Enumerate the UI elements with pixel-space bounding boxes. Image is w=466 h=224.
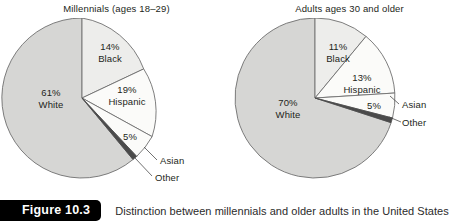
label-hispanic-name-millennials: Hispanic: [108, 96, 145, 107]
figure-caption-text: Distinction between millennials and olde…: [115, 205, 449, 217]
label-black-pct-millennials: 14%: [100, 41, 120, 52]
label-black-name-adults: Black: [326, 53, 350, 64]
pie-svg-adults: 11% Black 13% Hispanic 5% 70% White Asia…: [233, 18, 466, 195]
label-hispanic-pct-millennials: 19%: [117, 84, 137, 95]
figure-caption-row: Figure 10.3 Distinction between millenni…: [0, 197, 466, 224]
label-asian-name-millennials: Asian: [160, 155, 184, 166]
label-white-name-millennials: White: [39, 99, 64, 110]
label-hispanic-name-adults: Hispanic: [343, 84, 380, 95]
pie-chart-millennials: Millennials (ages 18–29) 14% Black 19% H…: [0, 0, 233, 195]
label-other-name-adults: Other: [402, 117, 426, 128]
figure-container: Millennials (ages 18–29) 14% Black 19% H…: [0, 0, 466, 224]
label-white-name-adults: White: [276, 109, 301, 120]
label-other-name-millennials: Other: [155, 172, 179, 183]
leader-line-asian-millennials: [144, 147, 157, 160]
label-white-pct-millennials: 61%: [41, 87, 61, 98]
figure-number-badge: Figure 10.3: [0, 200, 101, 221]
label-black-name-millennials: Black: [98, 53, 122, 64]
label-asian-pct-adults: 5%: [367, 100, 381, 111]
leader-line-other-millennials: [135, 158, 152, 176]
chart-title-adults: Adults ages 30 and older: [233, 3, 466, 14]
label-black-pct-adults: 11%: [329, 41, 348, 52]
pie-chart-adults: Adults ages 30 and older 11% Black 13% H…: [233, 0, 466, 195]
chart-title-millennials: Millennials (ages 18–29): [0, 3, 233, 14]
pie-svg-millennials: 14% Black 19% Hispanic 5% 61% White Asia…: [0, 18, 233, 195]
label-hispanic-pct-adults: 13%: [352, 72, 372, 83]
label-asian-name-adults: Asian: [402, 99, 426, 110]
label-asian-pct-millennials: 5%: [123, 131, 137, 142]
label-white-pct-adults: 70%: [278, 97, 298, 108]
